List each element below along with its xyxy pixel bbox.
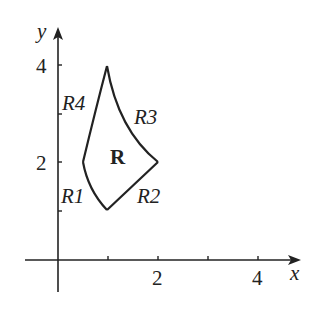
y-axis-label: y [35,19,47,43]
region-label: R [110,145,126,169]
boundary-r4 [83,66,107,162]
x-tick-label-2: 2 [152,266,163,290]
label-r2: R2 [136,184,161,208]
y-tick-label-2: 2 [36,151,47,175]
x-axis [25,255,301,265]
x-axis-label: x [289,261,300,285]
boundary-r1 [83,162,107,210]
diagram-canvas: 4 2 2 4 x y R4 R3 R1 R2 R [0,0,325,316]
y-tick-label-4: 4 [36,54,47,78]
label-r3: R3 [133,105,157,129]
label-r1: R1 [60,184,84,208]
x-tick-label-4: 4 [252,266,263,290]
y-axis [53,27,63,292]
label-r4: R4 [61,91,86,115]
region-diagram: 4 2 2 4 x y R4 R3 R1 R2 R [0,0,325,316]
